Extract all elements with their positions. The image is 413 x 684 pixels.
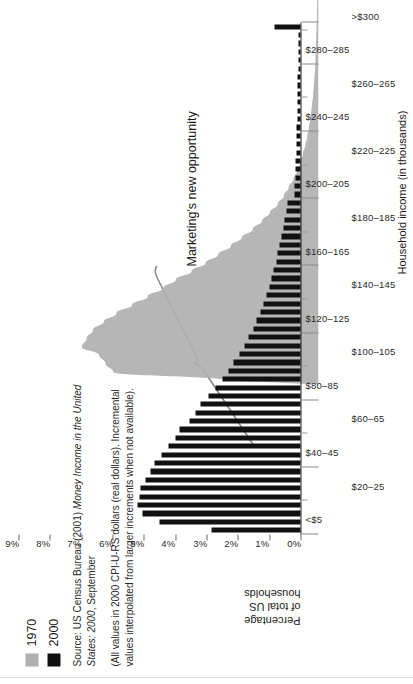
x-tick-label: >$300 [351,10,379,21]
x-tick [301,399,318,400]
x-tick [301,29,307,30]
bar-2000 [296,141,300,146]
chart-page: 1970 2000 Source: US Census Bureau (2001… [0,0,413,684]
bar-2000 [145,477,300,482]
bar-2000 [142,510,300,515]
bar-2000 [277,250,300,255]
bar-2000 [296,150,300,155]
bar-2000 [195,410,300,415]
bar-2000 [281,233,300,238]
bar-2000 [269,284,300,289]
y-axis-title: Percentage of total US households [244,586,300,627]
bar-2000 [296,124,300,129]
y-tick-label: 7% [67,538,81,549]
bar-2000 [297,116,300,121]
y-tick: 6% [112,22,113,534]
x-tick [301,365,307,366]
bar-2000 [253,326,300,331]
legend-item-1970: 1970 [24,618,38,666]
legend-label-2000: 2000 [46,618,60,646]
x-tick [301,197,318,198]
legend-label-1970: 1970 [24,618,38,646]
x-tick [301,432,307,433]
legend-swatch-1970 [25,653,38,666]
bar-2000 [294,183,300,188]
x-tick [301,130,318,131]
bar-2000 [295,166,300,171]
income-distribution-figure: 1970 2000 Source: US Census Bureau (2001… [0,0,413,684]
x-tick [301,21,318,22]
bar-2000 [244,343,300,348]
y-tick: 9% [18,22,19,534]
bar-2000 [294,191,300,196]
x-tick-label: $120–125 [305,312,349,323]
x-tick-label: $40–45 [305,446,338,457]
bar-2000 [150,468,300,473]
x-tick [301,63,318,64]
legend: 1970 2000 [24,618,68,666]
x-tick-label: $140–145 [351,278,395,289]
x-axis-title: Household income (in thousands) [395,110,407,274]
x-tick [301,298,307,299]
bar-2000 [295,175,300,180]
x-axis-line [300,22,301,534]
bar-2000 [287,200,300,205]
y-tick-label: 8% [36,538,50,549]
x-tick [301,164,307,165]
bar-2000 [286,208,300,213]
y-tick: 1% [269,22,270,534]
x-tick-label: $60–65 [351,413,384,424]
bar-2000 [279,242,300,247]
y-tick: 2% [237,22,238,534]
series-2000-bars [18,22,300,534]
x-tick-label: $80–85 [305,379,338,390]
x-tick-label: $180–185 [351,211,395,222]
bar-2000 [222,376,300,381]
bar-2000 [273,267,300,272]
y-tick: 5% [143,22,144,534]
bar-2000 [208,393,300,398]
x-tick-label: $20–25 [351,480,384,491]
bar-2000 [276,259,300,264]
bar-2000 [233,359,300,364]
y-tick-label: 2% [224,538,238,549]
y-tick-label: 1% [255,538,269,549]
bar-2000 [266,292,300,297]
x-tick-label: $160–165 [305,245,349,256]
bar-2000 [271,275,300,280]
bar-2000 [274,24,300,29]
y-tick: 8% [49,22,50,534]
bar-2000 [248,334,300,339]
bar-2000 [137,502,300,507]
x-tick-label: $280–285 [305,43,349,54]
x-tick [301,231,307,232]
bar-2000 [297,108,300,113]
bar-2000 [260,309,300,314]
x-tick [301,499,307,500]
x-tick [301,466,318,467]
bar-2000 [159,519,300,524]
bar-2000 [168,443,300,448]
x-tick-label: <$5 [305,513,322,524]
y-tick-label: 9% [4,538,18,549]
x-tick [301,264,318,265]
bar-2000 [179,427,300,432]
legend-item-2000: 2000 [46,618,60,666]
y-tick: 3% [206,22,207,534]
source-note-p1b: , September [85,555,96,609]
y-tick-label: 5% [130,538,144,549]
bar-2000 [140,485,300,490]
bar-2000 [161,452,300,457]
x-tick [301,332,318,333]
bar-2000 [200,401,300,406]
bar-2000 [256,317,300,322]
bar-2000 [215,385,300,390]
y-tick-label: 0% [286,538,300,549]
x-tick-label: $240–245 [305,110,349,121]
x-tick-label: $220–225 [351,144,395,155]
bar-2000 [296,133,300,138]
x-tick-label: $100–105 [351,345,395,356]
x-tick [301,97,307,98]
y-tick: 4% [175,22,176,534]
y-tick-label: 4% [161,538,175,549]
